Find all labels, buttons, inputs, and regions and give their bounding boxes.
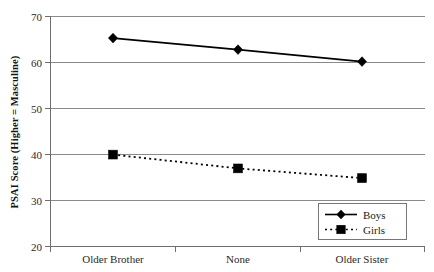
x-category-label-none: None: [226, 253, 250, 265]
y-tick-label-60: 60: [31, 57, 43, 69]
chart-legend: Boys Girls: [319, 204, 407, 240]
legend-label-boys: Boys: [363, 209, 386, 221]
series-girls-point-older-brother: [109, 150, 118, 159]
y-tick-label-20: 20: [31, 241, 43, 253]
psai-score-line-chart: 70 60 50 40 30 20 PSAI Score (Higher = M…: [0, 0, 434, 272]
y-tick-label-70: 70: [31, 11, 43, 23]
y-tick-label-50: 50: [31, 103, 43, 115]
legend-marker-square-icon: [337, 225, 345, 233]
legend-label-girls: Girls: [363, 224, 385, 236]
chart-figure: 70 60 50 40 30 20 PSAI Score (Higher = M…: [0, 0, 434, 272]
y-tick-label-30: 30: [31, 195, 43, 207]
x-category-label-older-brother: Older Brother: [82, 253, 144, 265]
series-girls-point-none: [234, 164, 243, 173]
y-axis-title: PSAI Score (Higher = Masculine): [9, 55, 21, 208]
series-girls-point-older-sister: [358, 174, 367, 183]
x-category-label-older-sister: Older Sister: [336, 253, 389, 265]
y-tick-label-40: 40: [31, 149, 43, 161]
